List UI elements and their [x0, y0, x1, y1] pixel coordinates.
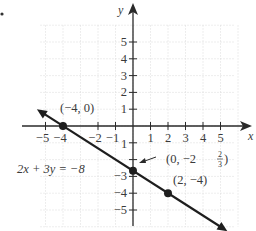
y-axis-label: y — [117, 3, 124, 17]
y-tick-label: 1 — [121, 102, 127, 116]
x-tick-label: 5 — [217, 131, 223, 145]
x-tick-label: 2 — [165, 131, 171, 145]
y-tick-label: 3 — [121, 69, 127, 83]
point-0-neg2-2thirds — [129, 167, 137, 175]
bullet-marker — [0, 12, 3, 15]
x-axis-label: x — [247, 129, 254, 143]
svg-text:1: 1 — [121, 137, 127, 151]
fraction-denominator: 3 — [218, 160, 222, 169]
point-label-neg4-0: (−4, 0) — [60, 101, 94, 115]
y-tick-label: 2 — [121, 85, 127, 99]
point-label-0-intercept: (0, −2 — [166, 152, 196, 166]
point-label-2-neg4: (2, −4) — [173, 173, 207, 187]
graph: −5−4−2−11234554321−3−4−51 x y (−4, 0) (0… — [0, 0, 256, 231]
equation-label: 2x + 3y = −8 — [17, 162, 85, 176]
fraction-numerator: 2 — [218, 150, 222, 159]
point-neg4-0 — [59, 122, 67, 130]
axes — [22, 12, 244, 226]
x-tick-label: 4 — [200, 131, 207, 145]
y-tick-label: −3 — [114, 169, 127, 183]
line-arrow-left-icon — [37, 109, 48, 118]
x-tick-label: 3 — [182, 131, 188, 145]
y-tick-label: −5 — [114, 203, 127, 217]
x-tick-label: −1 — [106, 131, 119, 145]
y-tick-label: 5 — [121, 35, 127, 49]
y-tick-label: 4 — [121, 52, 128, 66]
x-tick-label: 1 — [147, 131, 153, 145]
point-label-suffix: ) — [224, 152, 228, 166]
intercept-pointer-arrow-icon — [139, 158, 146, 163]
x-tick-label: −5 — [36, 131, 49, 145]
x-tick-label: −4 — [53, 131, 67, 145]
point-2-neg4 — [164, 189, 172, 197]
y-tick-label: −4 — [114, 186, 128, 200]
